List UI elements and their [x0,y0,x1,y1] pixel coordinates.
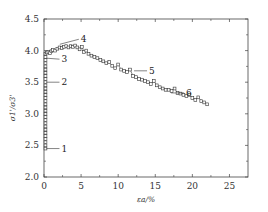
data-point [44,106,47,109]
data-point [108,61,111,64]
data-point [44,112,47,115]
data-point [44,97,47,100]
data-point [138,78,141,81]
data-point [126,71,129,74]
data-point [123,69,126,72]
data-point [99,59,102,62]
data-point [164,88,167,91]
data-point [197,96,200,99]
y-tick-label: 4.5 [25,14,40,24]
data-point [44,128,47,131]
data-point [44,116,47,119]
data-point [179,92,182,95]
data-point [44,81,47,84]
data-point [44,62,47,65]
data-point [149,83,152,86]
data-point [167,88,170,91]
x-tick-label: 10 [112,181,124,191]
y-tick-label: 4.0 [25,46,40,56]
x-tick-label: 15 [150,181,162,191]
data-point [80,45,83,48]
x-tick-label: 25 [224,181,236,191]
annotation-label: 1 [61,144,67,154]
data-point [44,100,47,103]
data-point [170,90,173,93]
data-point [44,56,47,59]
data-point [44,131,47,134]
data-point [90,54,93,57]
data-point [44,109,47,112]
data-point [44,119,47,122]
annotation-label: 5 [149,66,155,76]
y-axis-title: σ1'/σ3' [8,95,17,121]
data-point [87,52,90,55]
y-axis-ticks: 2.02.53.03.54.04.5 [25,14,248,182]
x-tick-label: 20 [187,181,199,191]
data-point [44,147,47,150]
data-point [44,68,47,71]
data-point [135,76,138,79]
data-point [117,63,120,66]
data-point [44,103,47,106]
data-point [96,57,99,60]
y-tick-label: 2.0 [25,172,40,182]
x-tick-label: 5 [78,181,84,191]
x-axis-title: εa/% [137,195,155,204]
data-point [182,93,185,96]
y-tick-label: 2.5 [25,140,40,150]
data-point [152,80,155,83]
data-point [85,49,88,52]
annotations: 123456 [46,34,192,153]
data-point [44,74,47,77]
data-point [102,60,105,63]
data-point [44,141,47,144]
data-point [146,81,149,84]
data-point [114,67,117,70]
data-point [44,78,47,81]
data-point [44,138,47,141]
data-point [44,71,47,74]
data-point [203,101,206,104]
data-point [111,64,114,67]
annotation-label: 3 [61,54,67,64]
data-point [158,86,161,89]
data-point [44,135,47,138]
data-point [129,68,132,71]
data-point [206,103,209,106]
y-tick-label: 3.0 [25,109,40,119]
data-point [105,62,108,65]
data-point [194,98,197,101]
plot-frame [44,19,248,177]
data-point [141,78,144,81]
data-point [44,93,47,96]
data-point [93,56,96,59]
y-tick-label: 3.5 [25,77,40,87]
annotation-label: 2 [61,77,67,87]
data-point [44,84,47,87]
data-point [200,100,203,103]
data-point [155,84,158,87]
x-tick-label: 0 [41,181,47,191]
data-point [44,87,47,90]
data-point [44,144,47,147]
data-point [161,87,164,90]
annotation-label: 4 [81,34,87,44]
stress-ratio-chart: 0510152025 2.02.53.03.54.04.5 123456 εa/… [0,0,268,212]
data-point [44,65,47,68]
data-point [120,68,123,71]
data-point [44,59,47,62]
data-point [44,90,47,93]
data-series [44,44,209,150]
data-point [173,87,176,90]
data-point [132,74,135,77]
annotation-label: 6 [186,88,192,98]
data-point [44,122,47,125]
data-point [143,80,146,83]
data-point [44,125,47,128]
